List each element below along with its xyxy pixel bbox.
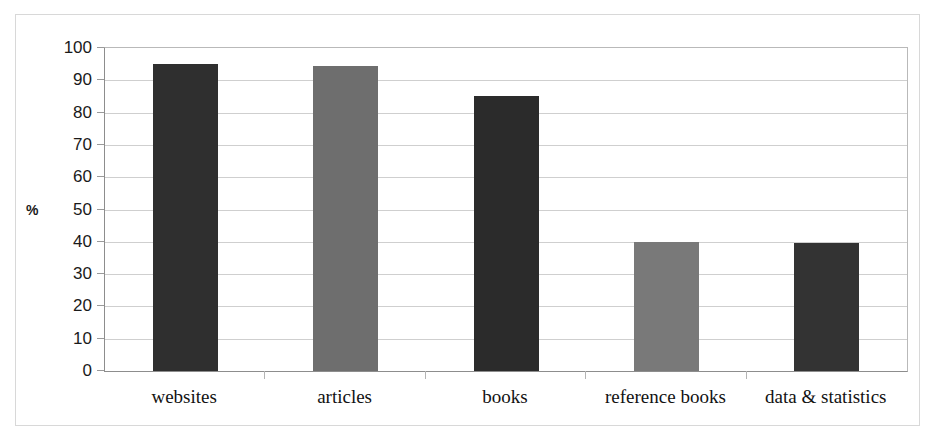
y-axis-tick-mark	[97, 273, 104, 274]
y-axis-tick-mark	[97, 112, 104, 113]
y-axis-tick-mark	[97, 79, 104, 80]
x-axis-category-label: books	[425, 387, 585, 406]
y-axis-tick-label: 50	[52, 201, 92, 218]
y-axis-tick-label: 40	[52, 233, 92, 250]
y-axis-tick-mark	[97, 209, 104, 210]
x-axis-category-label: data & statistics	[746, 387, 906, 406]
x-axis-tick-mark	[746, 371, 747, 379]
y-axis-tick-label: 0	[52, 362, 92, 379]
x-axis-category-label: reference books	[585, 387, 745, 406]
y-axis-tick-label: 30	[52, 265, 92, 282]
y-axis-tick-mark	[97, 241, 104, 242]
y-axis-tick-label: 100	[52, 39, 92, 56]
y-axis-tick-mark	[97, 338, 104, 339]
y-axis-tick-mark	[97, 305, 104, 306]
x-axis-tick-mark	[585, 371, 586, 379]
bar	[474, 96, 539, 371]
y-axis-tick-label: 70	[52, 136, 92, 153]
x-axis-tick-mark	[425, 371, 426, 379]
y-axis-tick-mark	[97, 176, 104, 177]
y-axis-tick-label: 80	[52, 104, 92, 121]
gridline	[105, 80, 907, 81]
y-axis-tick-label: 20	[52, 297, 92, 314]
x-axis-tick-mark	[264, 371, 265, 379]
plot-area	[104, 47, 908, 372]
y-axis-tick-label: 90	[52, 71, 92, 88]
y-axis-tick-label: 60	[52, 168, 92, 185]
x-axis-category-label: articles	[264, 387, 424, 406]
chart-frame: % 1009080706050403020100 websitesarticle…	[15, 14, 920, 426]
y-axis-tick-mark	[97, 144, 104, 145]
y-axis-tick-mark	[97, 370, 104, 371]
x-axis-category-label: websites	[104, 387, 264, 406]
bar	[794, 243, 859, 371]
bar	[634, 242, 699, 371]
y-axis-tick-mark	[97, 47, 104, 48]
bar	[313, 66, 378, 371]
y-axis-tick-label: 10	[52, 330, 92, 347]
bar	[153, 64, 218, 371]
y-axis-title: %	[26, 202, 38, 218]
